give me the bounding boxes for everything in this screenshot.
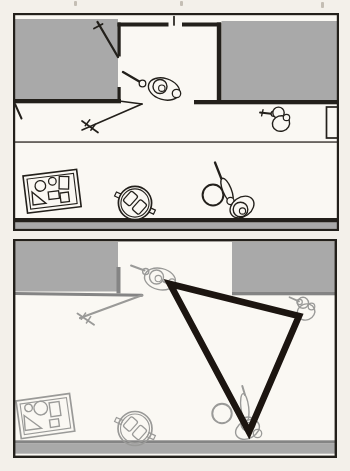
door-jamb bbox=[117, 267, 121, 294]
scanned-figure-page bbox=[0, 0, 350, 471]
gray-wall-area-right bbox=[232, 242, 336, 292]
crop-mark bbox=[321, 2, 324, 8]
ball bbox=[203, 185, 224, 206]
gray-wall-area-right bbox=[222, 21, 339, 101]
wall-window bbox=[327, 107, 339, 138]
crop-mark bbox=[180, 1, 183, 6]
baseboard-strip bbox=[15, 218, 337, 229]
wall-edge-left bbox=[15, 294, 142, 296]
overview-panel bbox=[13, 13, 339, 231]
tray-of-objects bbox=[23, 169, 81, 213]
gray-wall-area-left bbox=[15, 242, 118, 292]
baseboard-strip bbox=[15, 440, 335, 453]
closeup-triangle-panel bbox=[13, 239, 337, 458]
crop-mark bbox=[74, 1, 77, 6]
corridor-line bbox=[15, 141, 338, 143]
wall-edge-right bbox=[232, 292, 336, 296]
